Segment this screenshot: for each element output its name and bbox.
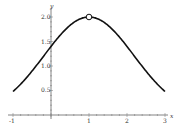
y-tick-label: 1.0 (41, 62, 51, 69)
x-tick-label: 2 (125, 117, 129, 124)
open-circle-marker (86, 14, 92, 20)
y-tick-label: 0.5 (41, 86, 51, 93)
x-tick-label: 3 (163, 117, 167, 124)
curve-line (13, 17, 165, 92)
y-tick-label: 2.0 (41, 13, 51, 20)
x-axis-label: x (170, 112, 174, 119)
x-tick-label: 1 (87, 117, 91, 124)
x-tick-label: -1 (9, 117, 15, 124)
chart: -1 1 2 3 x 0.5 1.0 1.5 2.0 y (0, 0, 177, 130)
y-axis-label: y (49, 2, 54, 10)
y-tick-label: 1.5 (41, 38, 51, 45)
